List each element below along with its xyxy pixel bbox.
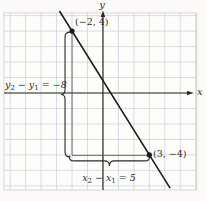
- point-marker-1: [69, 29, 74, 34]
- point-label-2: (3, −4): [153, 148, 187, 159]
- x-axis-label: x: [197, 86, 203, 97]
- point-label-1: (−2, 4): [75, 16, 109, 27]
- coordinate-plane-figure: y x (−2, 4) (3, −4) y2 − y1 = −8 x2 − x1…: [0, 0, 206, 201]
- delta-y-value: = −8: [39, 79, 67, 90]
- delta-y-label: y2 − y1 = −8: [5, 79, 67, 94]
- delta-x-value: = 5: [116, 172, 136, 183]
- plot-area: [4, 13, 197, 190]
- delta-x-minus: −: [92, 172, 106, 183]
- delta-y-minus: −: [15, 79, 29, 90]
- coordinate-plane: [0, 0, 206, 201]
- delta-x-label: x2 − x1 = 5: [76, 172, 142, 187]
- point-marker-2: [147, 152, 152, 157]
- y-axis-label: y: [97, 0, 107, 10]
